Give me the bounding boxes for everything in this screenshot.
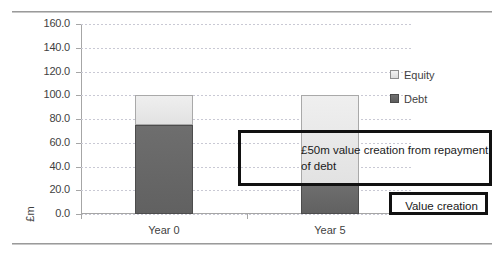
gridline (81, 48, 413, 49)
y-axis-tick-label: 60.0 (10, 136, 70, 148)
top-divider-rule (12, 11, 492, 13)
chart-canvas: 0.020.040.060.080.0100.0120.0140.0160.0 … (0, 0, 504, 262)
legend-swatch-equity-icon (390, 70, 399, 79)
bar-segment-debt (135, 125, 193, 214)
y-axis-tick-label: 20.0 (10, 183, 70, 195)
x-axis-tick (247, 214, 248, 219)
value-creation-callout-text: £50m value creation from repayment of de… (301, 142, 491, 174)
chart-legend: Equity Debt (390, 66, 435, 114)
y-axis-tick-label: 0.0 (10, 207, 70, 219)
value-creation-key-box: Value creation (389, 192, 488, 215)
bottom-divider-rule (12, 243, 492, 245)
y-axis-title-wrap: £m (30, 100, 54, 124)
gridline (81, 72, 413, 73)
x-axis-category-label: Year 5 (270, 224, 390, 236)
y-axis-title: £m (24, 206, 36, 221)
legend-label-debt: Debt (404, 93, 427, 105)
gridline (81, 95, 413, 96)
gridline (81, 190, 413, 191)
legend-item-debt: Debt (390, 90, 435, 107)
legend-swatch-debt-icon (390, 94, 399, 103)
y-axis-tick-label: 120.0 (10, 65, 70, 77)
legend-label-equity: Equity (404, 69, 435, 81)
legend-item-equity: Equity (390, 66, 435, 83)
y-axis-tick-label: 160.0 (10, 17, 70, 29)
y-axis-tick-label: 40.0 (10, 160, 70, 172)
value-creation-callout-box: £50m value creation from repayment of de… (238, 130, 492, 186)
y-axis-tick-label: 100.0 (10, 88, 70, 100)
x-axis-category-label: Year 0 (104, 224, 224, 236)
bar-year-0 (135, 95, 193, 214)
y-axis-tick-label: 140.0 (10, 41, 70, 53)
gridline (81, 119, 413, 120)
bar-segment-equity (135, 95, 193, 125)
gridline (81, 24, 413, 25)
value-creation-key-label: Value creation (392, 195, 491, 218)
bar-segment-debt (301, 184, 359, 214)
x-axis-tick (81, 214, 82, 219)
